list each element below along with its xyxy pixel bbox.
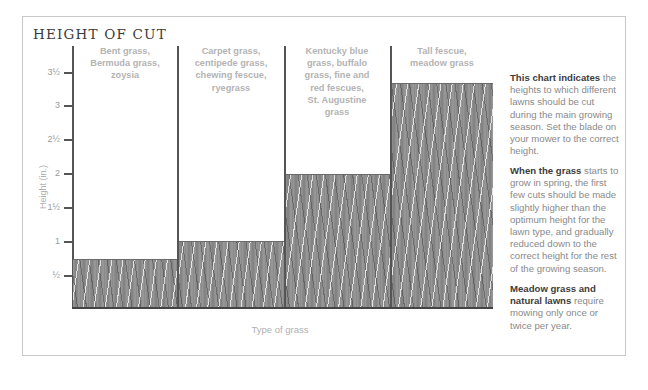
y-tick: [64, 207, 72, 209]
label-line: grass: [287, 106, 387, 118]
y-tick-label: 1½: [30, 202, 60, 212]
y-tick-label: 3: [30, 100, 60, 110]
y-tick-label: 3½: [30, 67, 60, 77]
x-axis-baseline: [72, 307, 493, 309]
column-divider: [177, 46, 179, 308]
label-line: grass, fine and: [287, 69, 387, 81]
label-line: St. Augustine: [287, 94, 387, 106]
label-line: Carpet grass,: [181, 45, 281, 57]
label-line: grass, buffalo: [287, 57, 387, 69]
column-divider: [390, 46, 392, 308]
side-paragraph-1-bold: This chart indicates: [510, 72, 600, 83]
side-paragraph-3: Meadow grass and natural lawns require m…: [510, 283, 622, 332]
label-line: red fescues,: [287, 82, 387, 94]
label-line: Tall fescue,: [392, 45, 492, 57]
column-divider: [284, 46, 286, 308]
column-label-tall-fescue: Tall fescue, meadow grass: [392, 45, 492, 69]
y-tick-label: 2: [30, 168, 60, 178]
label-line: Bermuda grass,: [75, 57, 175, 69]
x-axis-title: Type of grass: [200, 324, 360, 335]
y-tick-label: 2½: [30, 134, 60, 144]
grass-bar-kentucky: [285, 174, 390, 308]
side-paragraph-1: This chart indicates the heights to whic…: [510, 72, 622, 157]
label-line: chewing fescue,: [181, 69, 281, 81]
side-paragraph-1-text: the heights to which different lawns sho…: [510, 72, 619, 156]
y-tick: [64, 275, 72, 277]
grass-bar-carpet: [178, 241, 284, 308]
grass-bar-bent: [73, 259, 177, 308]
label-line: ryegrass: [181, 82, 281, 94]
label-line: meadow grass: [392, 57, 492, 69]
label-line: centipede grass,: [181, 57, 281, 69]
y-tick: [64, 139, 72, 141]
y-tick: [64, 72, 72, 74]
grass-bar-tall-fescue: [391, 83, 493, 308]
column-label-bent: Bent grass, Bermuda grass, zoysia: [75, 45, 175, 82]
label-line: zoysia: [75, 69, 175, 81]
side-paragraph-2: When the grass starts to grow in spring,…: [510, 165, 622, 275]
y-tick-label: ½: [30, 270, 60, 280]
y-tick: [64, 241, 72, 243]
side-paragraph-2-text: starts to grow in spring, the first few …: [510, 165, 618, 274]
y-tick-label: 1: [30, 236, 60, 246]
chart-title: HEIGHT OF CUT: [33, 26, 167, 42]
column-label-kentucky: Kentucky blue grass, buffalo grass, fine…: [287, 45, 387, 118]
column-label-carpet: Carpet grass, centipede grass, chewing f…: [181, 45, 281, 94]
y-tick: [64, 105, 72, 107]
y-tick: [64, 173, 72, 175]
label-line: Kentucky blue: [287, 45, 387, 57]
label-line: Bent grass,: [75, 45, 175, 57]
side-paragraph-2-bold: When the grass: [510, 165, 581, 176]
